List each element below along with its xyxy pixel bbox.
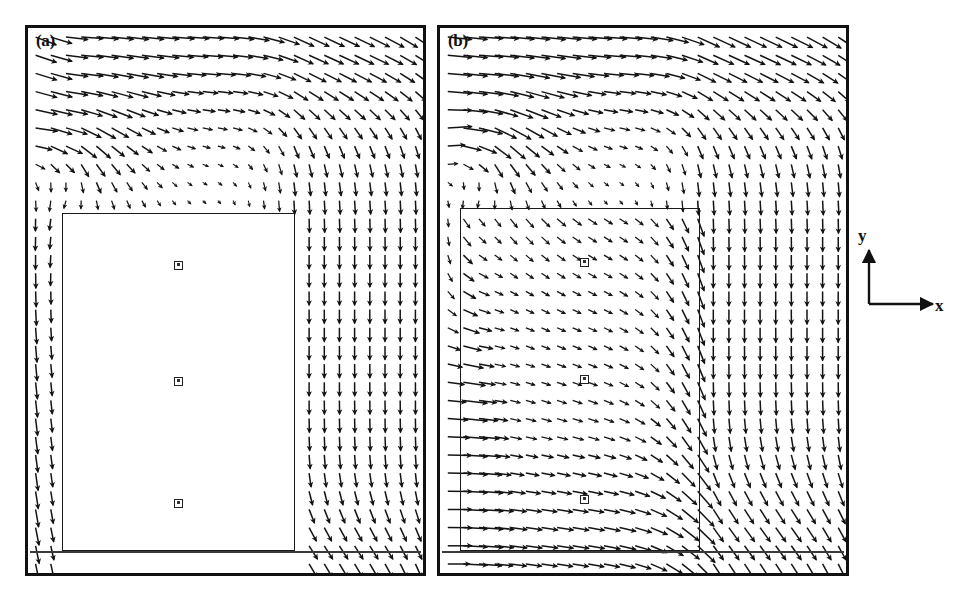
vector-arrow xyxy=(385,473,387,487)
vector-arrow xyxy=(573,164,580,170)
vector-arrow xyxy=(400,55,416,64)
vector-arrow xyxy=(573,419,583,422)
vector-arrow xyxy=(838,146,842,159)
vector-arrow xyxy=(698,164,701,178)
vector-arrow xyxy=(776,146,781,159)
vector-arrow xyxy=(248,128,257,132)
vector-arrow xyxy=(620,164,626,167)
vector-arrow xyxy=(698,328,705,345)
vector-arrow xyxy=(415,55,423,65)
vector-arrow xyxy=(776,92,791,102)
vector-arrow xyxy=(294,164,297,177)
vector-arrow xyxy=(791,437,793,452)
vector-arrow xyxy=(729,546,739,560)
vector-arrow xyxy=(651,509,667,516)
vector-arrow xyxy=(729,164,732,178)
vector-arrow xyxy=(588,291,596,295)
vector-arrow xyxy=(233,110,245,112)
vector-arrow xyxy=(339,491,343,505)
vector-arrow xyxy=(791,455,795,470)
vector-arrow xyxy=(698,455,709,472)
vector-arrow xyxy=(573,328,582,332)
vector-arrow xyxy=(510,164,519,177)
vector-arrow xyxy=(823,164,826,178)
vector-arrow xyxy=(635,400,644,406)
vector-arrow xyxy=(415,437,416,451)
vector-arrow xyxy=(760,400,761,415)
vector-arrow xyxy=(448,291,455,298)
vector-arrow xyxy=(807,128,814,140)
vector-arrow xyxy=(309,182,311,195)
vector-arrow xyxy=(51,491,53,505)
vector-arrow xyxy=(463,346,481,351)
vector-arrow xyxy=(807,509,816,523)
vector-arrow xyxy=(620,92,636,94)
vector-arrow xyxy=(588,237,596,242)
vector-arrow xyxy=(620,419,630,423)
vector-arrow xyxy=(385,491,388,505)
vector-arrow xyxy=(713,419,714,434)
vector-arrow xyxy=(495,237,502,243)
vector-arrow xyxy=(400,110,409,120)
vector-arrow xyxy=(557,509,573,512)
vector-arrow xyxy=(604,164,610,167)
vector-arrow xyxy=(682,491,697,504)
vector-arrow xyxy=(309,473,311,487)
vector-arrow xyxy=(510,273,517,278)
vector-arrow xyxy=(51,364,52,377)
vector-arrow xyxy=(776,473,782,487)
vector-arrow xyxy=(604,182,609,186)
vector-arrow xyxy=(526,328,534,331)
vector-arrow xyxy=(666,128,675,134)
vector-arrow xyxy=(651,273,659,281)
vector-arrow xyxy=(370,509,375,523)
vector-arrow xyxy=(651,491,666,498)
vector-arrow xyxy=(370,437,371,451)
vector-arrow xyxy=(448,400,466,402)
vector-arrow xyxy=(36,146,52,150)
vector-arrow xyxy=(324,437,325,451)
vector-arrow xyxy=(635,473,648,478)
vector-arrow xyxy=(791,201,792,215)
vector-arrow xyxy=(760,473,766,487)
vector-arrow xyxy=(682,310,689,324)
vector-arrow xyxy=(542,509,558,511)
vector-arrow xyxy=(651,382,659,390)
vector-arrow xyxy=(188,146,196,149)
vector-arrow xyxy=(666,528,683,538)
vector-arrow xyxy=(542,255,550,261)
vector-arrow xyxy=(324,73,341,82)
vector-arrow xyxy=(807,437,809,452)
vector-arrow xyxy=(776,128,784,140)
vector-arrow xyxy=(682,110,694,118)
vector-arrow xyxy=(218,201,221,204)
vector-arrow xyxy=(588,437,599,440)
vector-arrow xyxy=(682,92,697,99)
axis-orientation-key: y x xyxy=(855,228,965,338)
vector-arrow xyxy=(36,310,37,326)
vector-arrow xyxy=(713,146,718,159)
vector-arrow xyxy=(557,291,565,296)
vector-arrow xyxy=(713,92,728,101)
vector-arrow xyxy=(557,182,563,189)
vector-arrow xyxy=(588,201,592,206)
vector-arrow xyxy=(279,73,296,80)
vector-arrow xyxy=(448,127,472,128)
vector-arrow xyxy=(462,201,463,209)
vector-arrow xyxy=(557,346,566,349)
vector-arrow xyxy=(49,219,50,230)
vector-arrow xyxy=(339,110,350,120)
vector-arrow xyxy=(666,255,673,266)
vector-arrow xyxy=(620,382,629,386)
vector-arrow xyxy=(233,201,235,205)
vector-arrow xyxy=(51,564,54,573)
vector-arrow xyxy=(203,92,218,94)
vector-arrow xyxy=(526,364,535,367)
vector-arrow xyxy=(651,164,656,169)
vector-arrow xyxy=(448,145,465,146)
vector-arrow xyxy=(526,182,532,192)
vector-arrow xyxy=(635,491,649,496)
vector-arrow xyxy=(635,310,643,316)
vector-arrow xyxy=(448,182,453,186)
vector-arrow xyxy=(666,164,670,172)
